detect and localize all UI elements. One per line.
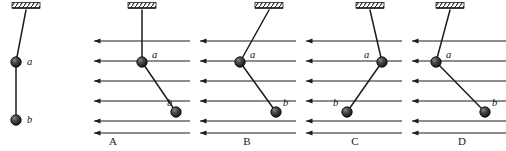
field-arrowhead-C-0 (306, 38, 313, 43)
ceiling-hatching-B (255, 3, 283, 9)
field-arrowhead-A-3 (94, 98, 101, 103)
field-arrowhead-A-1 (94, 58, 101, 63)
field-arrowhead-C-5 (306, 130, 313, 135)
field-arrowhead-D-0 (412, 38, 419, 43)
field-arrowhead-D-5 (412, 130, 419, 135)
field-arrowhead-B-1 (200, 58, 207, 63)
ball-label-b-A: b (167, 98, 172, 109)
ball-b-A (171, 107, 181, 117)
ball-label-b-C: b (333, 98, 338, 109)
ball-label-a-B: a (250, 50, 255, 61)
field-arrowhead-C-4 (306, 118, 313, 123)
field-arrowhead-B-0 (200, 38, 207, 43)
ball-b-B (271, 107, 281, 117)
ball-label-a-A: a (152, 50, 157, 61)
field-arrowhead-A-5 (94, 130, 101, 135)
ball-label-a-ref: a (27, 57, 32, 68)
field-arrowhead-D-4 (412, 118, 419, 123)
field-arrowhead-D-3 (412, 98, 419, 103)
field-arrowhead-C-3 (306, 98, 313, 103)
physics-diagram-figure: ababAabBabCabD (0, 0, 506, 151)
ball-b-ref (11, 115, 21, 125)
ball-label-a-C: a (364, 50, 369, 61)
ball-a-ref (11, 57, 21, 67)
ball-label-b-D: b (492, 98, 497, 109)
ceiling-hatching-A (128, 3, 156, 9)
ball-label-b-ref: b (27, 115, 32, 126)
ball-a-B (235, 57, 245, 67)
panel-label-B: B (227, 136, 267, 147)
field-arrowhead-D-2 (412, 78, 419, 83)
ball-a-D (431, 57, 441, 67)
field-arrowhead-B-3 (200, 98, 207, 103)
diagram-canvas (0, 0, 506, 151)
ball-a-C (377, 57, 387, 67)
panel-label-D: D (442, 136, 482, 147)
field-arrowhead-A-0 (94, 38, 101, 43)
ceiling-hatching-D (436, 3, 464, 9)
ball-b-C (342, 107, 352, 117)
ball-label-a-D: a (446, 50, 451, 61)
field-arrowhead-A-4 (94, 118, 101, 123)
field-arrowhead-D-1 (412, 58, 419, 63)
field-arrowhead-C-1 (306, 58, 313, 63)
field-arrowhead-C-2 (306, 78, 313, 83)
field-arrowhead-B-2 (200, 78, 207, 83)
ball-b-D (480, 107, 490, 117)
field-arrowhead-A-2 (94, 78, 101, 83)
field-arrowhead-B-4 (200, 118, 207, 123)
panel-label-A: A (93, 136, 133, 147)
field-arrowhead-B-5 (200, 130, 207, 135)
ceiling-hatching-C (356, 3, 384, 9)
panel-label-C: C (335, 136, 375, 147)
ball-a-A (137, 57, 147, 67)
ball-label-b-B: b (283, 98, 288, 109)
ceiling-hatching-ref (12, 3, 40, 9)
